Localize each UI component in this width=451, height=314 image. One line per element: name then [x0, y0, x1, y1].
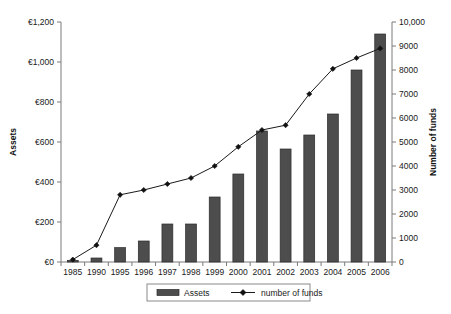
x-axis-category-label: 1990	[87, 267, 106, 277]
bar-2001	[257, 131, 268, 262]
bar-2006	[375, 34, 386, 262]
bar-1995	[115, 248, 126, 262]
right-axis-tick-label: 9000	[399, 41, 418, 51]
left-axis-tick-label: €600	[35, 137, 54, 147]
left-axis-tick-label: €1,200	[28, 17, 54, 27]
right-axis-tick-label: 1000	[399, 233, 418, 243]
x-axis-category-label: 2006	[371, 267, 390, 277]
right-axis-tick-label: 8000	[399, 65, 418, 75]
funds-marker-2005	[354, 55, 359, 60]
funds-marker-1996	[141, 187, 146, 192]
x-axis-category-label: 2004	[323, 267, 342, 277]
left-axis-tick-label: €200	[35, 217, 54, 227]
right-axis-tick-label: 5000	[399, 137, 418, 147]
bars-layer	[67, 34, 385, 262]
left-axis-tick-label: €400	[35, 177, 54, 187]
left-axis-tick-label: €0	[45, 257, 55, 267]
funds-marker-1997	[165, 181, 170, 186]
right-axis-tick-label: 10,000	[399, 17, 425, 27]
x-axis-category-label: 1998	[182, 267, 201, 277]
funds-marker-1998	[188, 175, 193, 180]
x-axis-category-label: 2005	[347, 267, 366, 277]
x-axis-category-label: 2003	[300, 267, 319, 277]
axes-layer	[57, 22, 396, 266]
y-axis-title: Assets	[8, 128, 18, 156]
bar-1990	[91, 258, 102, 262]
bar-2003	[304, 135, 315, 262]
x-axis-category-label: 2000	[229, 267, 248, 277]
left-axis-tick-label: €1,000	[28, 57, 54, 67]
right-axis-tick-label: 2000	[399, 209, 418, 219]
bar-1999	[209, 197, 220, 262]
bar-1997	[162, 224, 173, 262]
x-axis-category-label: 1985	[63, 267, 82, 277]
right-axis-tick-label: 3000	[399, 185, 418, 195]
bar-2002	[280, 149, 291, 262]
bar-2000	[233, 174, 244, 262]
right-axis-tick-label: 4000	[399, 161, 418, 171]
x-axis-category-label: 1995	[111, 267, 130, 277]
labels-layer: €0€200€400€600€800€1,000€1,2000100020003…	[8, 17, 438, 277]
legend-label-assets: Assets	[184, 288, 210, 298]
funds-marker-1990	[94, 243, 99, 248]
bar-2005	[351, 70, 362, 262]
x-axis-category-label: 1997	[158, 267, 177, 277]
x-axis-category-label: 1999	[205, 267, 224, 277]
x-axis-category-label: 2001	[253, 267, 272, 277]
combo-chart: €0€200€400€600€800€1,000€1,2000100020003…	[0, 0, 451, 314]
bar-1996	[138, 241, 149, 262]
right-axis-tick-label: 0	[399, 257, 404, 267]
legend-swatch-assets	[157, 290, 179, 296]
chart-legend: Assetsnumber of funds	[147, 284, 322, 301]
x-axis-category-label: 1996	[134, 267, 153, 277]
right-axis-tick-label: 7000	[399, 89, 418, 99]
bar-1998	[186, 224, 197, 262]
funds-marker-1995	[118, 192, 123, 197]
legend-label-funds: number of funds	[261, 288, 322, 298]
right-axis-tick-label: 6000	[399, 113, 418, 123]
chart-container: €0€200€400€600€800€1,000€1,2000100020003…	[0, 0, 451, 314]
bar-2004	[327, 114, 338, 262]
x-axis-category-label: 2002	[276, 267, 295, 277]
left-axis-tick-label: €800	[35, 97, 54, 107]
y2-axis-title: Number of funds	[428, 108, 438, 176]
